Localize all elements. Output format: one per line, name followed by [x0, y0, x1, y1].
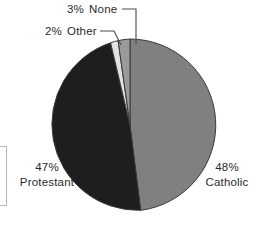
slice-name-other: Other [67, 25, 97, 37]
slice-label-other: 2%Other [45, 25, 97, 38]
slice-value-protestant: 47% [8, 160, 86, 175]
slice-label-catholic: 48% Catholic [196, 160, 258, 190]
slice-label-protestant: 47% Protestant [8, 160, 86, 190]
slice-value-catholic: 48% [196, 160, 258, 175]
pie-chart: 3%None 2%Other 47% Protestant 48% Cathol… [0, 0, 259, 225]
slice-name-protestant: Protestant [8, 175, 86, 190]
slice-label-none: 3%None [67, 3, 117, 16]
slice-value-other: 2% [45, 25, 62, 37]
slice-name-none: None [89, 3, 117, 15]
pie-chart-svg [0, 0, 259, 225]
slice-value-none: 3% [67, 3, 84, 15]
slice-name-catholic: Catholic [196, 175, 258, 190]
